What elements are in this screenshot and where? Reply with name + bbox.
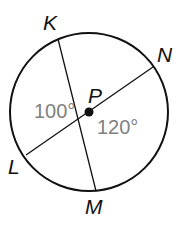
angle-120: 120°	[97, 116, 138, 138]
circle-diagram: K N L M P 100° 120°	[0, 0, 177, 225]
label-K: K	[43, 11, 58, 34]
label-L: L	[8, 155, 20, 178]
label-M: M	[85, 195, 103, 218]
angle-100: 100°	[34, 100, 75, 122]
center-point	[85, 108, 94, 117]
label-N: N	[157, 43, 173, 66]
label-P: P	[88, 84, 102, 107]
